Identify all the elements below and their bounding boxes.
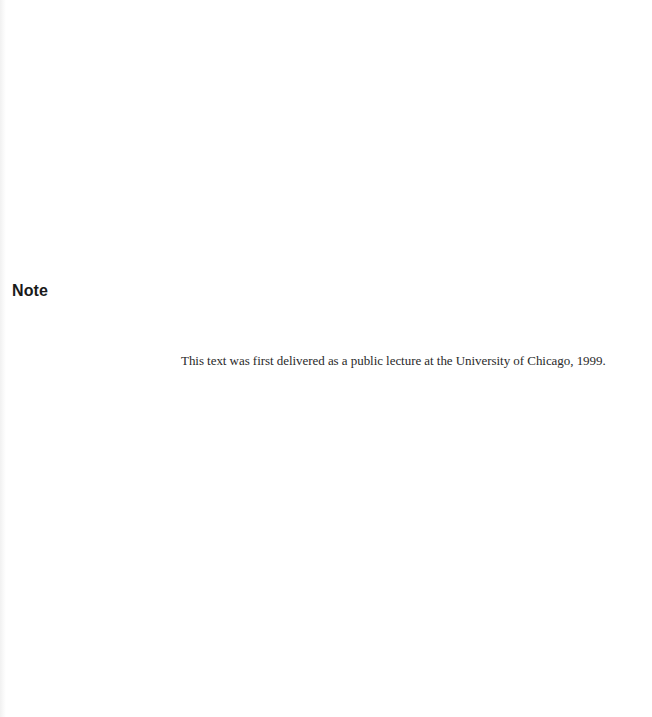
- section-heading: Note: [12, 281, 48, 301]
- page-edge-shadow: [0, 0, 6, 717]
- note-paragraph: This text was first delivered as a publi…: [181, 352, 606, 370]
